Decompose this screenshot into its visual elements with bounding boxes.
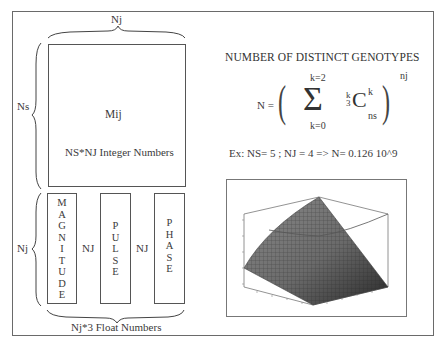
right-paren-icon: ) — [382, 80, 390, 124]
letter: H — [166, 229, 174, 241]
letter: S — [167, 252, 173, 264]
phase-column: P H A S E — [154, 193, 185, 304]
nj-label: Nj — [17, 242, 28, 254]
surface-plot-graphic — [227, 180, 408, 318]
c-superscript: k — [368, 86, 373, 97]
bottom-brace-label: Nj*3 Float Numbers — [71, 321, 161, 333]
c-subscript: ns — [368, 110, 377, 121]
letter: E — [166, 263, 172, 275]
letter: P — [167, 217, 173, 229]
exponent: nj — [400, 70, 408, 81]
combination-c: C — [352, 88, 367, 112]
left-paren-icon: ( — [278, 80, 286, 124]
formula-title: NUMBER OF DISTINCT GENOTYPES — [225, 51, 420, 63]
phase-letters: P H A S E — [155, 217, 184, 275]
matrix-box: Mij NS*NJ Integer Numbers — [48, 44, 186, 187]
letter: D — [58, 278, 66, 290]
formula-lhs: N = — [257, 99, 274, 111]
sum-lower-limit: k=0 — [310, 120, 326, 131]
letter: L — [112, 243, 118, 255]
matrix-name: Mij — [105, 108, 122, 120]
letter: T — [59, 255, 65, 267]
formula: N = ( k=2 Σ k=0 k 3 C k ns ) nj — [248, 72, 428, 142]
letter: I — [60, 243, 64, 255]
sigma-icon: Σ — [303, 82, 323, 116]
letter: U — [112, 232, 120, 244]
pulse-letters: P U L S E — [101, 220, 130, 278]
letter: E — [59, 289, 65, 301]
ns-label: Ns — [17, 100, 29, 112]
letter: S — [113, 255, 119, 267]
nj-brace-icon — [32, 193, 41, 306]
letter: G — [58, 220, 66, 232]
top-brace-label: Nj — [111, 13, 122, 25]
surface-plot — [226, 179, 407, 317]
letter: N — [58, 232, 66, 244]
magnitude-column: M A G N I T U D E — [47, 193, 77, 304]
letter: M — [57, 197, 66, 209]
gap-label-1: NJ — [82, 242, 94, 254]
letter: P — [113, 220, 119, 232]
ns-brace-icon — [32, 43, 41, 189]
letter: E — [112, 266, 118, 278]
example-text: Ex: NS= 5 ; NJ = 4 => N= 0.126 10^9 — [229, 147, 398, 159]
magnitude-letters: M A G N I T U D E — [48, 197, 76, 301]
top-brace-icon — [48, 26, 185, 38]
matrix-description: NS*NJ Integer Numbers — [65, 146, 174, 158]
letter: U — [58, 266, 66, 278]
letter: A — [58, 209, 66, 221]
gap-label-2: NJ — [136, 242, 148, 254]
pre-subscript: 3 — [346, 98, 351, 108]
letter: A — [166, 240, 174, 252]
pulse-column: P U L S E — [100, 193, 131, 304]
